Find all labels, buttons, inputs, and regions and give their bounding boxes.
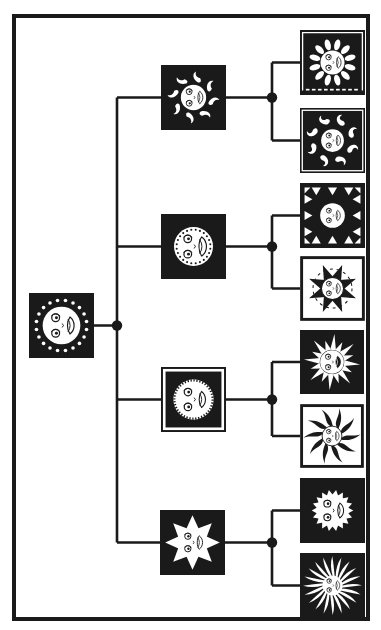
sun-node-branch-4 bbox=[160, 510, 225, 575]
petal-ray-sun-icon bbox=[300, 30, 365, 95]
serrated-disc-sun-icon bbox=[161, 367, 226, 432]
sawtooth-sun-icon bbox=[300, 478, 365, 543]
inward-triangle-sun-icon bbox=[300, 183, 365, 248]
triangle-point-sun-icon bbox=[160, 510, 225, 575]
wave-scroll-sun-icon bbox=[300, 108, 365, 173]
sun-node-leaf-3-1 bbox=[300, 330, 364, 394]
figure-canvas bbox=[0, 0, 381, 630]
wavy-ray-sun-icon bbox=[300, 404, 364, 468]
sun-node-branch-1 bbox=[161, 65, 226, 130]
sun-node-leaf-2-2 bbox=[300, 256, 365, 321]
sun-node-leaf-1-2 bbox=[300, 108, 365, 173]
sun-node-leaf-4-1 bbox=[300, 478, 365, 543]
sun-node-leaf-1-1 bbox=[300, 30, 365, 95]
sun-node-leaf-2-1 bbox=[300, 183, 365, 248]
dotted-circle-sun-icon bbox=[161, 214, 226, 279]
compass-star-sun-icon bbox=[300, 256, 365, 321]
pinwheel-sun-icon bbox=[300, 553, 365, 618]
spike-ray-sun-icon bbox=[300, 330, 364, 394]
sun-node-branch-2 bbox=[161, 214, 226, 279]
sun-node-leaf-3-2 bbox=[300, 404, 364, 468]
sun-node-root bbox=[29, 293, 94, 358]
sun-node-branch-3 bbox=[161, 367, 226, 432]
sun-node-leaf-4-2 bbox=[300, 553, 365, 618]
dotted-ring-sun-icon bbox=[29, 293, 94, 358]
flame-swirl-sun-icon bbox=[161, 65, 226, 130]
